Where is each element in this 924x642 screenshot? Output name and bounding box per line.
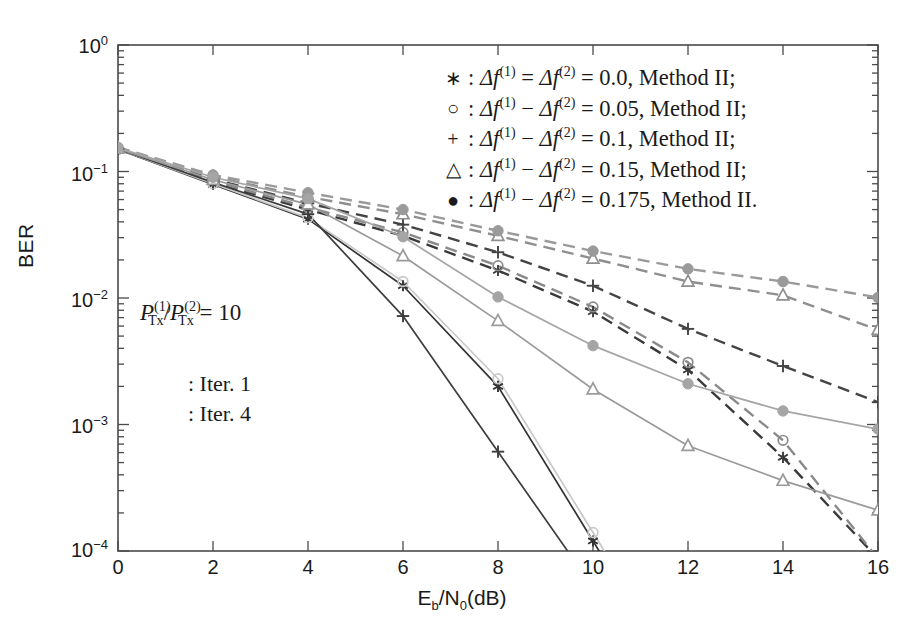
y-tick-mantissa: 10 xyxy=(71,415,93,437)
legend-marker-circle-icon: ○ xyxy=(438,93,468,124)
x-axis-label-sub-b: b xyxy=(431,598,438,613)
y-tick-mantissa: 10 xyxy=(71,163,93,185)
iter1-label: : Iter. 1 xyxy=(188,371,251,396)
iter4-legend-annotation: : Iter. 4 xyxy=(188,401,251,427)
legend-label: : Δf(1) − Δf(2) = 0.175, Method II. xyxy=(468,179,757,215)
legend-entry-plus: + : Δf(1) − Δf(2) = 0.1, Method II; xyxy=(438,118,757,149)
legend-marker-star-icon: ∗ xyxy=(438,63,468,94)
x-axis-label-unit: (dB) xyxy=(467,586,507,609)
legend-entry-circle: ○ : Δf(1) − Δf(2) = 0.05, Method II; xyxy=(438,88,757,119)
x-tick-label-2: 4 xyxy=(288,556,328,579)
x-tick-label-6: 12 xyxy=(668,556,708,579)
iter4-label: : Iter. 4 xyxy=(188,401,251,426)
legend-marker-plus-icon: + xyxy=(438,124,468,155)
x-axis-label-mid: /N xyxy=(439,586,460,609)
y-tick-label-2: 10−2 xyxy=(34,287,108,312)
y-tick-exp: −1 xyxy=(93,161,108,176)
y-tick-mantissa: 10 xyxy=(71,539,93,561)
x-tick-label-4: 8 xyxy=(478,556,518,579)
legend-entry-dot: ● : Δf(1) − Δf(2) = 0.175, Method II. xyxy=(438,179,757,210)
legend-marker-triangle-icon: △ xyxy=(438,154,468,185)
legend: ∗ : Δf(1) = Δf(2) = 0.0, Method II; ○ : … xyxy=(438,57,757,210)
legend-marker-dot-icon: ● xyxy=(438,185,468,216)
x-axis-label: Eb/N0(dB) xyxy=(0,586,924,613)
y-tick-label-1: 10−1 xyxy=(34,161,108,186)
x-tick-label-3: 6 xyxy=(383,556,423,579)
y-tick-exp: 0 xyxy=(101,33,108,48)
power-ratio-annotation: P(1)Tx/P(2)Tx = 10 xyxy=(140,298,241,329)
y-tick-label-4: 10−4 xyxy=(34,537,108,562)
x-axis-label-e: E xyxy=(417,586,431,609)
y-axis-label: BER xyxy=(14,223,38,268)
legend-entry-triangle: △ : Δf(1) − Δf(2) = 0.15, Method II; xyxy=(438,149,757,180)
y-tick-exp: −3 xyxy=(93,413,108,428)
x-axis-label-sub-0: 0 xyxy=(460,598,467,613)
legend-entry-star: ∗ : Δf(1) = Δf(2) = 0.0, Method II; xyxy=(438,57,757,88)
x-tick-label-0: 0 xyxy=(98,556,138,579)
y-tick-mantissa: 10 xyxy=(71,289,93,311)
x-tick-label-1: 2 xyxy=(193,556,233,579)
y-tick-label-0: 100 xyxy=(40,33,108,58)
x-tick-label-8: 16 xyxy=(858,556,898,579)
y-tick-exp: −4 xyxy=(93,537,108,552)
y-tick-mantissa: 10 xyxy=(79,35,101,57)
x-tick-label-5: 10 xyxy=(573,556,613,579)
x-tick-label-7: 14 xyxy=(763,556,803,579)
y-tick-exp: −2 xyxy=(93,287,108,302)
ber-figure: BER 100 10−1 10−2 10−3 10−4 0 2 4 6 8 10… xyxy=(0,0,924,642)
y-tick-label-3: 10−3 xyxy=(34,413,108,438)
iter1-legend-annotation: : Iter. 1 xyxy=(188,371,251,397)
